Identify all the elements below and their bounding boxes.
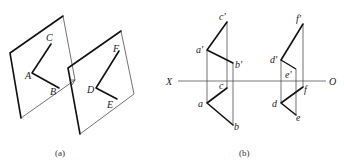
caption-a: (a)	[55, 148, 65, 158]
figure-a: C A B F D E (a)	[10, 16, 134, 158]
plane-abc: C A B	[10, 16, 75, 118]
axis-label-X: X	[165, 76, 173, 87]
label-B: B	[50, 86, 56, 97]
label-F: F	[112, 43, 120, 54]
angle-fde	[96, 51, 119, 99]
front-view-de	[281, 60, 296, 69]
label-d: d	[272, 98, 278, 109]
label-A: A	[24, 70, 32, 81]
figure-b: X O c' a' b' c a b f' d' e'	[165, 11, 336, 158]
label-c-prime: c'	[219, 11, 226, 22]
label-C: C	[46, 32, 53, 43]
label-e: e	[296, 112, 301, 123]
projection-def: f' d' e' f d e	[270, 13, 308, 123]
label-f-prime: f'	[296, 13, 302, 24]
label-d-prime: d'	[270, 54, 278, 65]
label-b-prime: b'	[235, 59, 243, 70]
label-f: f	[304, 84, 308, 95]
label-a-prime: a'	[196, 44, 204, 55]
front-view-abc	[207, 22, 233, 63]
angle-cab	[32, 44, 59, 88]
label-E: E	[106, 99, 113, 110]
projection-abc: c' a' b' c a b	[196, 11, 243, 132]
plane2-thin-edge	[80, 31, 134, 134]
label-D: D	[86, 84, 95, 95]
top-view-def	[281, 87, 303, 115]
caption-b: (b)	[239, 148, 250, 158]
top-view-abc	[207, 88, 233, 125]
projection-diagram: C A B F D E (a) X O c'	[0, 0, 344, 165]
axis-label-O: O	[329, 76, 336, 87]
label-a: a	[198, 98, 203, 109]
label-e-prime: e'	[285, 69, 292, 80]
label-b: b	[234, 121, 239, 132]
label-c: c	[219, 80, 224, 91]
plane-def: F D E	[68, 31, 134, 134]
front-view-df	[281, 24, 303, 60]
